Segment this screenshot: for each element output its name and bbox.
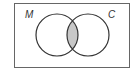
venn-diagram: M C [0,0,134,76]
set-m-label: M [25,9,34,20]
set-c-label: C [108,9,116,20]
